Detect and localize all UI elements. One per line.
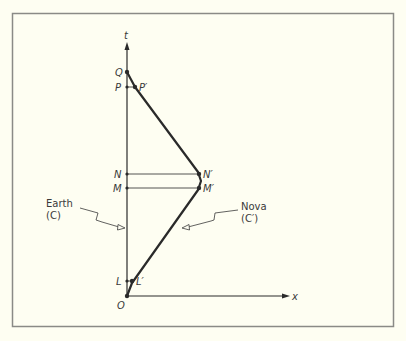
label-M: M — [113, 183, 122, 194]
earth-callout-leader — [80, 208, 119, 227]
point-Nprime — [197, 172, 201, 176]
label-Mprime: M′ — [203, 183, 215, 194]
earth-callout-symbol: (C) — [46, 210, 61, 221]
nova-callout-symbol: (C′) — [241, 213, 258, 224]
t-axis-label: t — [124, 30, 129, 41]
spacetime-diagram: t x O Q P N M L P′ N′ M′ L′ Earth (C) No… — [0, 0, 406, 341]
label-Pprime: P′ — [139, 82, 148, 93]
point-P — [125, 85, 128, 88]
nova-callout-arrow-icon — [182, 225, 190, 231]
x-axis: x — [127, 291, 298, 302]
label-Nprime: N′ — [203, 169, 213, 180]
nova-callout-leader — [188, 210, 238, 227]
point-Mprime — [197, 186, 201, 190]
label-P: P — [115, 82, 122, 93]
point-N — [125, 172, 128, 175]
point-M — [125, 186, 128, 189]
point-Lprime — [130, 279, 134, 283]
label-Q: Q — [115, 67, 123, 78]
x-axis-label: x — [291, 291, 298, 302]
point-L — [125, 279, 128, 282]
nova-callout-name: Nova — [241, 201, 267, 212]
earth-callout: Earth (C) — [46, 198, 125, 230]
earth-callout-name: Earth — [46, 198, 73, 209]
nova-callout: Nova (C′) — [182, 201, 267, 230]
t-axis-arrow-icon — [125, 42, 130, 50]
x-axis-arrow-icon — [282, 294, 290, 299]
earth-callout-arrow-icon — [118, 225, 126, 231]
label-L: L — [116, 276, 122, 287]
label-Lprime: L′ — [136, 276, 145, 287]
origin-label: O — [117, 300, 125, 311]
point-Pprime — [133, 85, 137, 89]
point-Q — [125, 70, 129, 74]
nova-worldline — [127, 72, 201, 296]
label-N: N — [114, 169, 122, 180]
